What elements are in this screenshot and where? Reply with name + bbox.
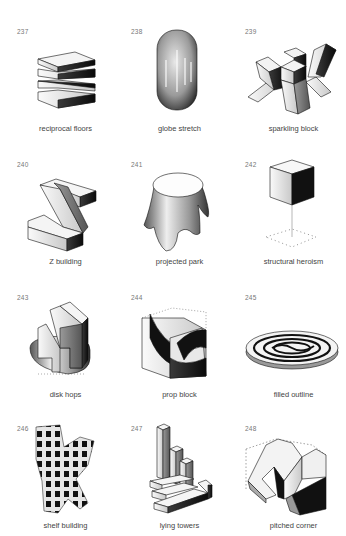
figure-244: 244 prop block — [122, 288, 237, 421]
figure-237: 237 reciprocal floors — [8, 22, 123, 155]
figure-242: 242 structural heroism — [236, 155, 346, 288]
figure-248: 248 pitched corner — [236, 419, 346, 536]
globe-stretch-drawing — [122, 22, 237, 122]
pitched-corner-drawing — [236, 419, 346, 519]
figure-243: 243 disk hops — [8, 288, 123, 421]
figure-caption: globe stretch — [122, 124, 237, 133]
figure-caption: disk hops — [8, 390, 123, 399]
figure-caption: reciprocal floors — [8, 124, 123, 133]
figure-caption: sparkling block — [236, 124, 346, 133]
figure-239: 239 sparkling block — [236, 22, 346, 155]
shelf-building-drawing — [8, 419, 123, 519]
figure-238: 238 globe stretch — [122, 22, 237, 155]
figure-caption: structural heroism — [236, 257, 346, 266]
figure-246: 246 shelf building — [8, 419, 123, 536]
figure-caption: shelf building — [8, 521, 123, 530]
figure-caption: Z building — [8, 257, 123, 266]
disk-hops-drawing — [8, 288, 123, 388]
z-building-drawing — [8, 155, 123, 255]
structural-heroism-drawing — [236, 155, 346, 255]
figure-247: 247 lying towers — [122, 419, 237, 536]
figure-caption: projected park — [122, 257, 237, 266]
lying-towers-drawing — [122, 419, 237, 519]
figure-245: 245 filled outline — [236, 288, 346, 421]
figure-caption: prop block — [122, 390, 237, 399]
figure-240: 240 Z building — [8, 155, 123, 288]
reciprocal-floors-drawing — [8, 22, 123, 122]
figure-241: 241 projected park — [122, 155, 237, 288]
filled-outline-drawing — [236, 288, 346, 388]
projected-park-drawing — [122, 155, 237, 255]
figure-caption: filled outline — [236, 390, 346, 399]
prop-block-drawing — [122, 288, 237, 388]
figure-caption: lying towers — [122, 521, 237, 530]
figure-caption: pitched corner — [236, 521, 346, 530]
sparkling-block-drawing — [236, 22, 346, 122]
